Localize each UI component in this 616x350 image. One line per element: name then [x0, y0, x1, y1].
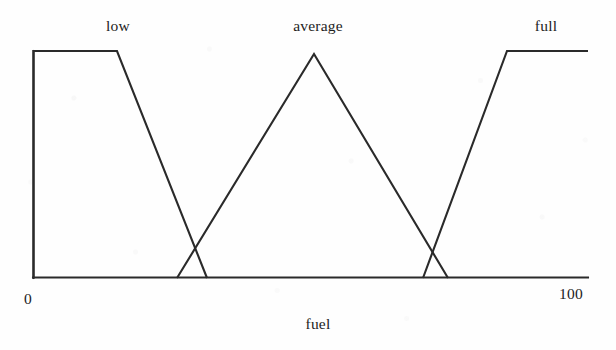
membership-curve-full [423, 51, 588, 278]
membership-curve-average [177, 54, 448, 278]
set-label-average: average [293, 18, 343, 34]
membership-plot [0, 0, 616, 350]
x-tick-label-min: 0 [24, 291, 32, 307]
fuzzy-membership-figure: low average full 0 100 fuel [0, 0, 616, 350]
x-tick-label-max: 100 [559, 286, 583, 302]
membership-curve-low [34, 51, 208, 278]
set-label-low: low [106, 18, 130, 34]
x-axis-title: fuel [306, 316, 331, 332]
axes-group [33, 51, 588, 278]
set-label-full: full [535, 18, 557, 34]
